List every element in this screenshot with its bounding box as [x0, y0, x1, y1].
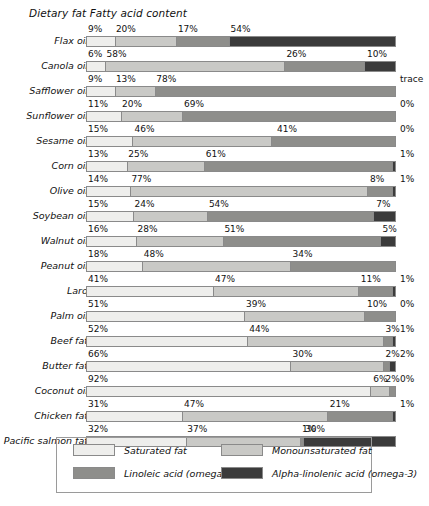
bar-segment-lin [284, 62, 364, 71]
stacked-bar [86, 136, 396, 147]
chart-title: Dietary fat Fatty acid content [29, 7, 187, 19]
segment-value-label: 13% [116, 74, 136, 85]
chart-row: Walnut oil16%28%51%5% [0, 224, 429, 249]
bar-segment-lin [182, 112, 395, 121]
legend-swatch-alpha-linolenic-acid [221, 467, 263, 479]
bar-segment-mono [121, 112, 183, 121]
legend-swatch-monounsaturated-fat [221, 444, 263, 456]
bar-segment-sat [87, 212, 133, 221]
bar-segment-ala [392, 337, 395, 346]
bar-segment-lin [223, 237, 380, 246]
segment-value-label: 18% [88, 249, 108, 260]
bar-segment-ala [364, 62, 395, 71]
bar-segment-sat [87, 137, 132, 146]
segment-value-label: 48% [144, 249, 164, 260]
bar-segment-mono [290, 362, 382, 371]
stacked-bar [86, 186, 396, 197]
row-end-label: 1% [400, 324, 414, 335]
bar-segment-lin [155, 87, 395, 96]
chart-row: Safflower oil9%13%78%trace [0, 74, 429, 99]
segment-value-label: 37% [187, 424, 207, 435]
bar-segment-mono [132, 137, 271, 146]
bar-segment-sat [87, 87, 115, 96]
segment-value-label: 46% [135, 124, 155, 135]
segment-value-label: 58% [107, 49, 127, 60]
segment-value-label: 34% [293, 249, 313, 260]
row-label: Coconut oil [0, 385, 88, 396]
row-label: Canola oil [0, 60, 88, 71]
bar-segment-mono [115, 87, 155, 96]
row-end-label: 0% [400, 299, 414, 310]
bar-segment-lin [290, 262, 395, 271]
chart-row: Beef fat52%44%3%1% [0, 324, 429, 349]
stacked-bar [86, 86, 396, 97]
bar-segment-ala [392, 162, 395, 171]
bar-segment-ala [392, 412, 395, 421]
bar-segment-ala [392, 287, 395, 296]
chart-row: Corn oil13%25%61%1% [0, 149, 429, 174]
row-label: Peanut oil [0, 260, 88, 271]
segment-value-label: 61% [206, 149, 226, 160]
bar-segment-lin [389, 387, 395, 396]
bar-segment-lin [271, 137, 395, 146]
chart-row: Sunflower oil11%20%69%0% [0, 99, 429, 124]
stacked-bar [86, 286, 396, 297]
stacked-bar [86, 361, 396, 372]
segment-value-label: 51% [224, 224, 244, 235]
row-value-labels: 18%48%34% [86, 249, 396, 261]
bar-segment-lin [327, 412, 392, 421]
segment-value-label: 2% [386, 349, 400, 360]
row-end-label: 0% [400, 124, 414, 135]
segment-value-label: 69% [184, 99, 204, 110]
stacked-bar [86, 336, 396, 347]
row-value-labels: 32%37%1%30% [86, 424, 396, 436]
bar-segment-sat [87, 312, 244, 321]
stacked-bar [86, 36, 396, 47]
segment-value-label: 47% [215, 274, 235, 285]
chart-row: Lard41%47%11%1% [0, 274, 429, 299]
bar-segment-mono [370, 387, 388, 396]
bar-segment-sat [87, 387, 370, 396]
chart-row: Flax oil9%20%17%54% [0, 24, 429, 49]
bar-segment-ala [389, 362, 395, 371]
legend-item-linoleic-acid: Linoleic acid (omega-6) [73, 467, 236, 479]
row-end-label: 1% [400, 149, 414, 160]
row-value-labels: 13%25%61% [86, 149, 396, 161]
bar-segment-mono [247, 337, 383, 346]
segment-value-label: 66% [88, 349, 108, 360]
legend-item-saturated-fat: Saturated fat [73, 444, 187, 456]
row-label: Soybean oil [0, 210, 88, 221]
row-label: Sesame oil [0, 135, 88, 146]
segment-value-label: 41% [88, 274, 108, 285]
bar-segment-sat [87, 287, 213, 296]
segment-value-label: 28% [138, 224, 158, 235]
stacked-bar [86, 411, 396, 422]
bar-segment-mono [244, 312, 364, 321]
stacked-bar [86, 211, 396, 222]
segment-value-label: 39% [246, 299, 266, 310]
bar-segment-mono [105, 62, 284, 71]
chart-rows: Flax oil9%20%17%54%Canola oil6%58%26%10%… [0, 24, 429, 449]
bar-segment-mono [127, 162, 204, 171]
row-value-labels: 41%47%11% [86, 274, 396, 286]
row-end-label: 0% [400, 374, 414, 385]
segment-value-label: 51% [88, 299, 108, 310]
row-label: Palm oil [0, 310, 88, 321]
bar-segment-sat [87, 412, 182, 421]
fatty-acid-content-chart: Dietary fat Fatty acid content Flax oil9… [0, 0, 429, 506]
segment-value-label: 47% [184, 399, 204, 410]
legend-row: Linoleic acid (omega-6) Alpha-linolenic … [57, 467, 371, 487]
segment-value-label: 15% [88, 124, 108, 135]
row-value-labels: 16%28%51%5% [86, 224, 396, 236]
row-value-labels: 51%39%10% [86, 299, 396, 311]
segment-value-label: 3% [386, 324, 400, 335]
row-label: Beef fat [0, 335, 88, 346]
row-value-labels: 6%58%26%10% [86, 49, 396, 61]
segment-value-label: 24% [135, 199, 155, 210]
row-end-label: 2% [400, 349, 414, 360]
stacked-bar [86, 386, 396, 397]
legend-label-saturated-fat: Saturated fat [124, 445, 187, 456]
segment-value-label: 11% [361, 274, 381, 285]
chart-row: Butter fat66%30%2%2% [0, 349, 429, 374]
segment-value-label: 2% [386, 374, 400, 385]
